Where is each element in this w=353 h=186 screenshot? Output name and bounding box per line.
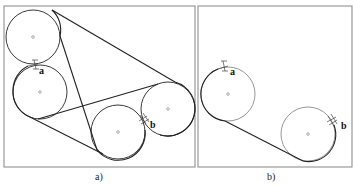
hub-icon (32, 36, 35, 39)
label-b: b (341, 120, 347, 131)
hub-icon (117, 131, 120, 134)
panel-a-frame (4, 6, 195, 167)
hub-icon (307, 133, 310, 136)
label-a: a (39, 65, 44, 76)
tensioner-b-icon (139, 113, 149, 124)
panel-a: a b a) (4, 6, 195, 183)
pulley-top-left (6, 10, 60, 64)
panel-b-frame (198, 6, 352, 167)
panel-b: a b b) (198, 6, 352, 183)
belt-b (201, 69, 336, 162)
belt-drive-figure: a b a) a b b) (0, 0, 353, 186)
label-b: b (150, 119, 156, 130)
tensioner-a-icon (28, 60, 39, 69)
hub-icon (39, 91, 42, 94)
caption-b: b) (267, 171, 275, 183)
hub-icon (227, 93, 230, 96)
caption-a: a) (95, 171, 103, 183)
label-a: a (230, 66, 235, 77)
tensioner-b-icon (327, 114, 337, 126)
tensioner-a-icon (218, 61, 228, 71)
pulley-bottom-middle (91, 105, 145, 159)
hub-icon (167, 108, 170, 111)
belt-a (13, 10, 195, 160)
pulley-right (281, 107, 335, 161)
